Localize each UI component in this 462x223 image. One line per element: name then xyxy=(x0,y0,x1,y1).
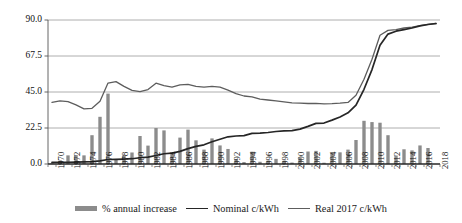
y-axis-tick-label: 0.0 xyxy=(2,158,42,168)
x-axis-tick-label: 2002 xyxy=(312,152,322,169)
legend-label: Real 2017 c/kWh xyxy=(315,203,387,214)
x-axis-tick-label: 1988 xyxy=(200,152,210,169)
x-axis-tick-label: 1986 xyxy=(184,152,194,169)
x-axis-tick-label: 1978 xyxy=(120,152,130,169)
bar-swatch-icon xyxy=(75,206,97,211)
x-axis-tick-label: 2016 xyxy=(424,152,434,169)
chart-figure: 0.022.545.067.590.0 19701972197419761978… xyxy=(0,0,462,223)
x-axis-tick-label: 2004 xyxy=(328,152,338,169)
x-axis-tick-label: 2006 xyxy=(344,152,354,169)
x-axis-tick-label: 1984 xyxy=(168,152,178,169)
x-axis-tick-label: 1976 xyxy=(104,152,114,169)
x-axis-tick-label: 1996 xyxy=(264,152,274,169)
x-axis-tick-label: 1974 xyxy=(88,152,98,169)
x-axis-tick-label: 2010 xyxy=(376,152,386,169)
y-axis-tick-label: 67.5 xyxy=(2,50,42,60)
x-axis-tick-label: 1998 xyxy=(280,152,290,169)
legend-label: % annual increase xyxy=(102,203,177,214)
line-swatch-dark-icon xyxy=(186,208,208,209)
legend-label: Nominal c/kWh xyxy=(213,203,279,214)
legend-item-annual-increase: % annual increase xyxy=(75,203,177,214)
x-axis-tick-label: 2000 xyxy=(296,152,306,169)
x-axis-tick-label: 1970 xyxy=(56,152,66,169)
x-axis-tick-label: 2018 xyxy=(440,152,450,169)
y-axis-tick-label: 90.0 xyxy=(2,14,42,24)
x-axis-tick-label: 1972 xyxy=(72,152,82,169)
x-axis-tick-label: 1980 xyxy=(136,152,146,169)
x-axis-tick-label: 2008 xyxy=(360,152,370,169)
y-axis-tick-label: 45.0 xyxy=(2,86,42,96)
x-axis-tick-label: 1992 xyxy=(232,152,242,169)
x-axis-tick-label: 2014 xyxy=(408,152,418,169)
x-axis-tick-label: 1990 xyxy=(216,152,226,169)
legend-item-real: Real 2017 c/kWh xyxy=(288,203,387,214)
x-axis-tick-label: 1982 xyxy=(152,152,162,169)
x-axis-tick-label: 1994 xyxy=(248,152,258,169)
chart-legend: % annual increase Nominal c/kWh Real 201… xyxy=(0,198,462,218)
y-axis-tick-label: 22.5 xyxy=(2,122,42,132)
chart-canvas xyxy=(0,0,462,223)
line-swatch-gray-icon xyxy=(288,208,310,209)
x-axis-tick-label: 2012 xyxy=(392,152,402,169)
legend-item-nominal: Nominal c/kWh xyxy=(186,203,279,214)
